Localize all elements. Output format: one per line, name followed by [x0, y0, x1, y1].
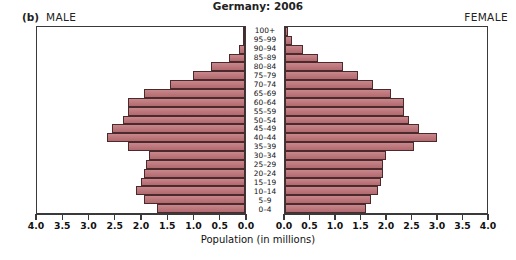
bar-row — [285, 89, 487, 98]
bar-row — [37, 71, 245, 80]
bar — [128, 98, 245, 107]
bar — [170, 80, 245, 89]
axis-tick-label: 3.5 — [54, 220, 70, 231]
bar — [128, 142, 245, 151]
bar — [285, 116, 409, 125]
age-group-label: 80–84 — [246, 62, 284, 71]
axis-tick-label: 4.0 — [480, 220, 496, 231]
bar-row — [285, 151, 487, 160]
bar — [229, 54, 245, 63]
bar-row — [37, 133, 245, 142]
axis-tick-label: 2.0 — [133, 220, 149, 231]
axis-tick-label: 3.5 — [454, 220, 470, 231]
bar — [107, 133, 245, 142]
bar-row — [37, 116, 245, 125]
bar-row — [285, 80, 487, 89]
bar-row — [285, 45, 487, 54]
female-axis-label: FEMALE — [464, 11, 508, 23]
bar — [285, 124, 419, 133]
bar — [146, 160, 245, 169]
age-group-label: 70–74 — [246, 80, 284, 89]
bar — [144, 169, 245, 178]
bar-row — [285, 186, 487, 195]
bar-row — [37, 27, 245, 36]
age-group-label: 100+ — [246, 26, 284, 35]
axis-tick-label: 3.0 — [80, 220, 96, 231]
bar — [239, 45, 245, 54]
bar — [285, 89, 391, 98]
bar-row — [37, 204, 245, 213]
axis-tick-label: 0.5 — [212, 220, 228, 231]
bar-row — [37, 62, 245, 71]
bar — [123, 116, 245, 125]
bar-row — [37, 195, 245, 204]
bar-row — [285, 133, 487, 142]
axis-tick-label: 1.0 — [185, 220, 201, 231]
age-group-label: 75–79 — [246, 71, 284, 80]
bar — [285, 178, 381, 187]
axis-tick-label: 2.5 — [403, 220, 419, 231]
bar — [128, 107, 245, 116]
age-group-label: 25–29 — [246, 160, 284, 169]
bar — [243, 27, 245, 36]
age-group-label: 90–94 — [246, 44, 284, 53]
axis-tick-label: 1.0 — [327, 220, 343, 231]
bar-row — [285, 27, 487, 36]
female-plot-area — [284, 26, 488, 214]
bar — [285, 151, 386, 160]
bar — [211, 62, 245, 71]
male-axis-label: MALE — [46, 11, 76, 23]
bar — [112, 124, 245, 133]
bar-row — [37, 178, 245, 187]
axis-tick-label: 1.5 — [352, 220, 368, 231]
bar-row — [285, 54, 487, 63]
axis-tick-label: 1.5 — [159, 220, 175, 231]
age-group-label: 40–44 — [246, 133, 284, 142]
bar — [285, 107, 404, 116]
bar — [285, 186, 378, 195]
male-bar-rows — [37, 27, 245, 213]
bar — [285, 27, 288, 36]
bar-row — [37, 142, 245, 151]
bar-row — [285, 195, 487, 204]
age-group-label: 35–39 — [246, 142, 284, 151]
bar-row — [285, 169, 487, 178]
bar — [285, 142, 414, 151]
bar-row — [285, 98, 487, 107]
bar-row — [285, 160, 487, 169]
x-axis-title: Population (in millions) — [0, 234, 516, 245]
age-group-label: 45–49 — [246, 124, 284, 133]
age-group-label: 15–19 — [246, 178, 284, 187]
bar-row — [285, 36, 487, 45]
bar — [285, 54, 318, 63]
bar-row — [37, 107, 245, 116]
age-group-label: 30–34 — [246, 151, 284, 160]
bar-row — [37, 54, 245, 63]
bar — [285, 169, 383, 178]
age-group-label: 95–99 — [246, 35, 284, 44]
bar — [157, 204, 245, 213]
axis-tick-label: 2.0 — [378, 220, 394, 231]
axis-tick-label: 0.0 — [276, 220, 292, 231]
bar — [285, 98, 404, 107]
bar — [136, 186, 245, 195]
axis-tick-label: 2.5 — [107, 220, 123, 231]
age-group-label: 65–69 — [246, 89, 284, 98]
bar-row — [37, 151, 245, 160]
bar-row — [37, 89, 245, 98]
bar — [285, 45, 303, 54]
bar-row — [37, 36, 245, 45]
age-group-label: 85–89 — [246, 53, 284, 62]
bar-row — [37, 169, 245, 178]
axis-tick-label: 4.0 — [28, 220, 44, 231]
bar — [141, 178, 245, 187]
bar-row — [37, 186, 245, 195]
bar-row — [285, 71, 487, 80]
bar-row — [285, 178, 487, 187]
male-plot-area — [36, 26, 246, 214]
bar — [149, 151, 245, 160]
bar-row — [37, 160, 245, 169]
bar — [144, 89, 245, 98]
female-bar-rows — [285, 27, 487, 213]
bar-row — [37, 98, 245, 107]
